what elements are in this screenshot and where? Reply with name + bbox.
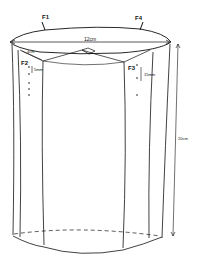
f3-dots bbox=[136, 64, 138, 96]
wall-left-inner bbox=[18, 50, 21, 237]
label-spacing-f3: 15mm bbox=[144, 73, 155, 77]
label-diameter: 12cm bbox=[84, 37, 96, 42]
bottom-back-dashed bbox=[14, 230, 160, 236]
label-f3: F3 bbox=[128, 65, 135, 71]
label-height: 20cm bbox=[178, 137, 188, 141]
f2-dots bbox=[28, 66, 30, 96]
wall-left-cut bbox=[42, 61, 44, 245]
label-spacing-f2: 5mm bbox=[34, 68, 43, 72]
wall-right-inner bbox=[149, 52, 153, 238]
label-f4: F4 bbox=[135, 15, 142, 21]
label-gap: 4cm bbox=[27, 50, 35, 54]
label-f2: F2 bbox=[21, 60, 28, 66]
f1-marker bbox=[42, 22, 45, 30]
bottom-front bbox=[13, 236, 162, 253]
cylinder-diagram bbox=[0, 0, 201, 264]
wall-left-outer bbox=[12, 44, 14, 235]
wall-right-outer bbox=[162, 44, 170, 238]
label-f1: F1 bbox=[42, 14, 49, 20]
wall-right-cut bbox=[123, 62, 125, 248]
